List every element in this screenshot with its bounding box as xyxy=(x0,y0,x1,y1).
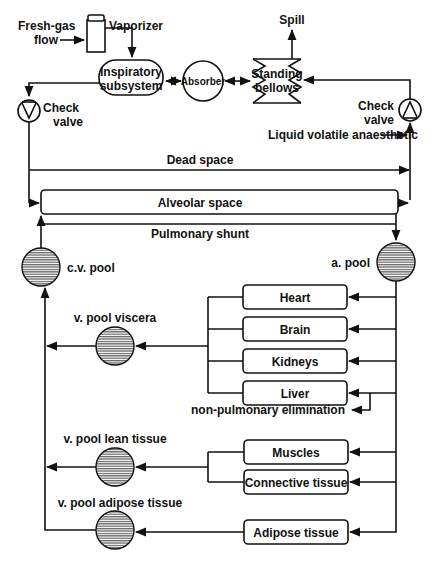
organ-kidneys-label: Kidneys xyxy=(272,355,319,369)
organ-heart-label: Heart xyxy=(280,291,311,305)
non-pulmonary-label: non-pulmonary elimination xyxy=(191,403,345,417)
organ-kidneys: Kidneys xyxy=(208,349,396,373)
diagram-canvas: Fresh-gas flow Vaporizer Inspiratory sub… xyxy=(0,0,439,567)
organ-brain: Brain xyxy=(208,317,396,341)
inspiratory-label-1: Inspiratory xyxy=(100,65,162,79)
fresh-gas-flow-label-1: Fresh-gas xyxy=(18,19,76,33)
non-pulmonary-arrow xyxy=(352,393,370,410)
fresh-gas-flow-label-2: flow xyxy=(34,33,59,47)
bellows-label-2: bellows xyxy=(255,81,299,95)
organ-adipose-tissue: Adipose tissue xyxy=(136,519,396,544)
organ-heart: Heart xyxy=(208,285,396,309)
vaporizer-icon xyxy=(87,15,105,52)
compartment-diagram: Fresh-gas flow Vaporizer Inspiratory sub… xyxy=(0,0,439,567)
v-pool-viscera-label: v. pool viscera xyxy=(74,311,157,325)
organ-liver-label: Liver xyxy=(281,387,310,401)
v-pool-viscera-node xyxy=(96,327,134,365)
organ-connective-tissue: Connective tissue xyxy=(208,470,396,494)
check-valve-right-label-2: valve xyxy=(364,113,394,127)
organ-connective-label: Connective tissue xyxy=(245,476,348,490)
check-valve-left-icon xyxy=(18,100,40,122)
alveolar-space-label: Alveolar space xyxy=(158,196,243,210)
cv-pool-node xyxy=(22,248,60,286)
v-pool-lean-label: v. pool lean tissue xyxy=(63,432,166,446)
absorber-label: Absorber xyxy=(181,76,226,87)
inspiratory-label-2: subsystem xyxy=(100,79,163,93)
adipose-pool-to-venous-line xyxy=(45,519,96,530)
inspiratory-to-valve-line xyxy=(29,83,99,96)
check-valve-left-label-1: Check xyxy=(43,101,79,115)
vaporizer-label: Vaporizer xyxy=(109,19,163,33)
spill-label: Spill xyxy=(279,13,304,27)
v-pool-adipose-label: v. pool adipose tissue xyxy=(58,496,183,510)
a-pool-label: a. pool xyxy=(331,256,370,270)
cv-pool-label: c.v. pool xyxy=(67,261,115,275)
check-valve-left-label-2: valve xyxy=(53,115,83,129)
organ-adipose-label: Adipose tissue xyxy=(253,526,339,540)
check-valve-right-icon xyxy=(399,99,421,121)
organ-muscles: Muscles xyxy=(208,440,396,464)
v-pool-adipose-node xyxy=(96,511,134,549)
pulmonary-shunt-label: Pulmonary shunt xyxy=(151,227,249,241)
dead-space-label: Dead space xyxy=(167,153,234,167)
organ-liver: Liver xyxy=(208,381,396,405)
organ-brain-label: Brain xyxy=(280,323,311,337)
organ-muscles-label: Muscles xyxy=(272,446,320,460)
bellows-label-1: Standing xyxy=(251,67,302,81)
a-pool-node xyxy=(377,243,415,281)
v-pool-lean-node xyxy=(96,448,134,486)
check-valve-right-label-1: Check xyxy=(358,99,394,113)
